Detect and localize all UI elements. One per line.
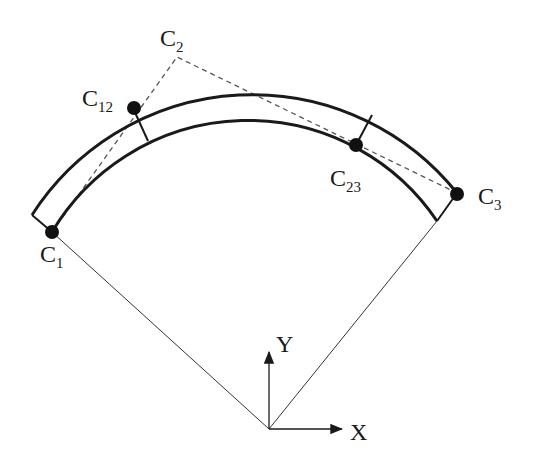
point-c23 bbox=[349, 138, 363, 152]
axis-y-label: Y bbox=[276, 331, 293, 357]
radial-line-right bbox=[269, 221, 437, 429]
radial-line-left bbox=[52, 232, 269, 429]
label-c3: C3 bbox=[478, 183, 502, 213]
label-c1: C1 bbox=[40, 241, 64, 271]
diagram-canvas: C1 C12 C2 C23 C3 Y X bbox=[0, 0, 534, 466]
label-c23: C23 bbox=[330, 165, 361, 195]
point-c12 bbox=[127, 101, 141, 115]
label-c12: C12 bbox=[82, 85, 113, 115]
point-c3 bbox=[450, 187, 464, 201]
point-c1 bbox=[45, 225, 59, 239]
control-polygon bbox=[52, 57, 457, 232]
axis-x-label: X bbox=[350, 419, 367, 445]
outer-arc bbox=[32, 95, 457, 215]
label-c2: C2 bbox=[160, 25, 184, 55]
